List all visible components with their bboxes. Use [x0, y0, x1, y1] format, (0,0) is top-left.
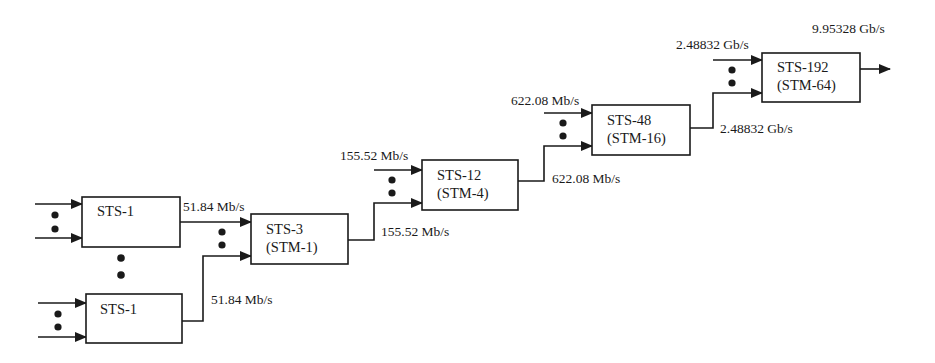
ellipsis-dot — [559, 132, 566, 139]
block-label: STS-1 — [100, 301, 137, 317]
block-label: STS-12 — [437, 167, 481, 183]
ellipsis-dot — [728, 79, 735, 86]
block-sts3: STS-3 (STM-1) — [251, 214, 348, 264]
block-sublabel: (STM-16) — [607, 130, 666, 147]
ellipsis-dot — [728, 66, 735, 73]
block-label: STS-48 — [607, 112, 651, 128]
rate-label: 622.08 Mb/s — [552, 171, 620, 186]
rate-label: 155.52 Mb/s — [340, 148, 408, 163]
block-sts12: STS-12 (STM-4) — [422, 160, 518, 210]
rate-label: 155.52 Mb/s — [381, 224, 449, 239]
ellipsis-dot — [54, 310, 61, 317]
block-sts1-bottom: STS-1 — [38, 294, 182, 343]
block-label: STS-192 — [777, 59, 829, 75]
rate-label: 51.84 Mb/s — [183, 199, 245, 214]
block-label: STS-3 — [266, 221, 303, 237]
block-label: STS-1 — [97, 203, 134, 219]
multiplexing-diagram: STS-1 STS-1 51.84 Mb/s 51.84 Mb/s STS-3 … — [0, 0, 935, 363]
ellipsis-dot — [51, 225, 58, 232]
ellipsis-dot — [51, 211, 58, 218]
ellipsis-dot — [388, 189, 395, 196]
rate-label: 9.95328 Gb/s — [812, 21, 885, 36]
ellipsis-dot — [218, 228, 225, 235]
block-sts1-top: STS-1 — [35, 197, 180, 247]
block-sts48: STS-48 (STM-16) — [592, 105, 690, 155]
block-sublabel: (STM-4) — [437, 185, 489, 202]
block-sts192: STS-192 (STM-64) — [762, 53, 860, 102]
ellipsis-dot — [54, 323, 61, 330]
block-sublabel: (STM-1) — [266, 239, 318, 256]
link-sts1b-to-sts3 — [182, 256, 251, 321]
ellipsis-dot — [117, 271, 125, 279]
ellipsis-dot — [388, 176, 395, 183]
rate-label: 2.48832 Gb/s — [720, 121, 793, 136]
block-sublabel: (STM-64) — [777, 77, 836, 94]
rate-label: 51.84 Mb/s — [211, 292, 273, 307]
ellipsis-dot — [559, 119, 566, 126]
ellipsis-dot — [218, 241, 225, 248]
ellipsis-dot — [117, 254, 125, 262]
rate-label: 622.08 Mb/s — [511, 93, 579, 108]
rate-label: 2.48832 Gb/s — [676, 37, 749, 52]
